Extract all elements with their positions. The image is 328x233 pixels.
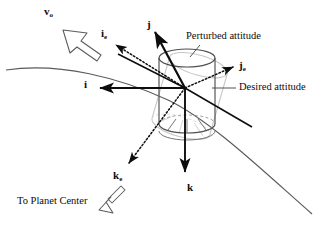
label-desired-attitude: Desired attitude [239, 82, 306, 93]
desired-body-top-ellipse [167, 47, 230, 83]
vector-k-error [129, 88, 185, 163]
perturbed-attitude-body [159, 49, 215, 140]
label-perturbed-attitude: Perturbed attitude [186, 31, 261, 42]
perturbed-body-thruster-lines [168, 119, 206, 133]
label-j-body: j [147, 19, 151, 30]
perturbed-body-top-ellipse [159, 49, 215, 67]
label-i-body: i [84, 79, 87, 90]
attitude-error-diagram: vo ie j i je ke k Perturbed attitude Des… [0, 0, 328, 233]
orbital-velocity-hollow-arrow [63, 30, 101, 61]
label-orbital-velocity: vo [44, 6, 53, 17]
origin-point [183, 86, 186, 89]
label-k-error: ke [113, 170, 122, 181]
label-k-body: k [187, 182, 193, 193]
label-j-error: je [239, 60, 246, 71]
label-to-planet-center: To Planet Center [17, 196, 87, 207]
label-i-error: ie [101, 28, 107, 39]
desired-body-thruster-lines [156, 113, 206, 139]
to-planet-center-hollow-arrow-shaft [108, 186, 125, 203]
